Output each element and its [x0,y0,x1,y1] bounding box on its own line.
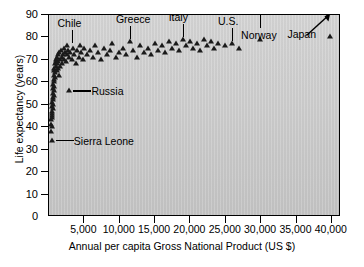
y-tick-10 [41,194,48,195]
x-tick-label-40000: 40,000 [315,224,347,235]
data-point [183,43,189,48]
data-point [197,47,203,52]
data-point [123,52,129,57]
annotation-label-norway: Norway [241,30,277,41]
x-tick-5000 [83,216,84,223]
data-point [51,92,57,97]
y-tick-70 [41,59,48,60]
data-point [222,43,228,48]
annotation-label-u-s: U.S. [218,16,238,27]
plot-area: ChileGreeceItalyU.S.RussiaSierra LeoneNo… [48,14,340,216]
data-point [173,41,179,46]
y-tick-20 [41,171,48,172]
data-point [50,101,56,106]
data-point [176,47,182,52]
data-point [130,47,136,52]
data-point [49,110,55,115]
annotation-leader-line [73,90,91,91]
annotation-label-japan: Japan [287,29,316,40]
data-point [95,50,101,55]
annotation-leader-line [130,26,131,39]
data-point [190,45,196,50]
data-point [120,45,126,50]
annotation-leader-line [232,28,233,41]
data-point [148,52,154,57]
y-tick-50 [41,104,48,105]
y-tick-label-0: 0 [0,211,38,222]
y-tick-90 [41,14,48,15]
data-point [134,54,140,59]
x-tick-20000 [189,216,190,223]
data-point [50,106,56,111]
data-point [50,97,56,102]
data-point [56,72,62,77]
x-tick-25000 [225,216,226,223]
data-point [49,124,55,129]
data-point [49,137,55,142]
y-tick-label-90: 90 [0,9,38,20]
data-point [155,47,161,52]
annotation-label-sierra-leone: Sierra Leone [74,136,134,147]
data-point [327,34,333,39]
data-point [109,41,115,46]
data-point [113,54,119,59]
data-point [48,128,54,133]
data-point [236,45,242,50]
annotation-leader-line [72,30,73,43]
data-point [201,36,207,41]
annotation-leader-line [56,140,74,141]
annotation-arrow-shaft [260,14,261,28]
data-point [208,38,214,43]
x-tick-10000 [119,216,120,223]
data-point [87,47,93,52]
y-tick-40 [41,126,48,127]
y-tick-30 [41,149,48,150]
x-tick-40000 [331,216,332,223]
data-point [141,50,147,55]
data-point [49,115,55,120]
data-point [166,38,172,43]
data-point [51,88,57,93]
data-point [107,47,113,52]
annotation-leader-line [183,24,184,37]
data-point [145,45,151,50]
annotation-label-italy: Italy [169,14,188,22]
scatter-chart-figure: 90 80 70 60 50 40 30 20 10 0 ChileGreece… [0,0,364,267]
data-point [204,43,210,48]
x-tick-label-10000: 10,000 [103,224,135,235]
data-point [73,61,79,66]
data-point [229,41,235,46]
data-point [51,79,57,84]
x-tick-label-5000: 5,000 [70,224,96,235]
data-point [211,45,217,50]
data-point [116,50,122,55]
annotation-label-chile: Chile [58,18,82,29]
x-tick-15000 [154,216,155,223]
data-point [104,52,110,57]
data-point [215,41,221,46]
data-point [194,41,200,46]
x-axis-title: Annual per capita Gross National Product… [0,240,364,252]
data-point [169,45,175,50]
y-tick-60 [41,81,48,82]
x-tick-35000 [296,216,297,223]
x-tick-label-25000: 25,000 [209,224,241,235]
data-point [90,54,96,59]
data-point [66,88,72,93]
data-point [137,43,143,48]
x-tick-label-15000: 15,000 [138,224,170,235]
x-tick-label-20000: 20,000 [173,224,205,235]
data-point [92,43,98,48]
x-tick-30000 [260,216,261,223]
data-point [80,56,86,61]
data-point [152,41,158,46]
data-point [98,56,104,61]
x-tick-label-35000: 35,000 [279,224,311,235]
data-point [180,36,186,41]
data-point [159,43,165,48]
data-point [187,38,193,43]
data-point [51,83,57,88]
y-axis-title: Life expectancy (years) [13,24,25,194]
data-point [127,38,133,43]
y-tick-80 [41,36,48,37]
